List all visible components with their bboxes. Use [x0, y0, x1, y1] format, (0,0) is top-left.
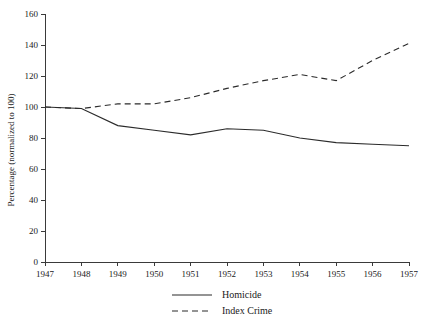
y-tick-label: 140 [25, 40, 39, 50]
y-tick-label: 160 [25, 9, 39, 19]
y-tick-label: 20 [29, 226, 39, 236]
x-tick-label: 1954 [291, 269, 310, 279]
x-tick-label: 1953 [254, 269, 273, 279]
y-tick-label: 0 [34, 257, 39, 267]
y-tick-label: 120 [25, 71, 39, 81]
y-axis-title: Percentage (normalized to 100) [6, 93, 16, 206]
y-tick-marks [41, 14, 45, 262]
x-tick-label: 1949 [109, 269, 128, 279]
x-tick-label: 1957 [400, 269, 419, 279]
legend-label-index-crime: Index Crime [222, 305, 273, 316]
series-line-homicide [45, 107, 409, 146]
x-tick-label: 1948 [72, 269, 91, 279]
y-tick-label: 40 [29, 195, 39, 205]
x-tick-label: 1955 [327, 269, 346, 279]
legend: Homicide Index Crime [172, 289, 273, 316]
y-tick-label: 100 [25, 102, 39, 112]
x-tick-label: 1947 [36, 269, 55, 279]
series-line-index-crime [45, 43, 409, 108]
x-tick-marks [45, 262, 409, 266]
series-group [45, 43, 409, 145]
x-tick-label: 1956 [364, 269, 383, 279]
x-tick-label: 1952 [218, 269, 236, 279]
chart-figure: 020406080100120140160 194719481949195019… [0, 0, 430, 323]
y-tick-label: 80 [29, 133, 39, 143]
y-tick-label: 60 [29, 164, 39, 174]
x-tick-label: 1950 [145, 269, 164, 279]
y-tick-labels: 020406080100120140160 [25, 9, 39, 267]
legend-label-homicide: Homicide [222, 289, 262, 300]
x-tick-labels: 1947194819491950195119521953195419551956… [36, 269, 419, 279]
line-chart: 020406080100120140160 194719481949195019… [0, 0, 430, 323]
y-axis: 020406080100120140160 [25, 9, 46, 267]
x-axis: 1947194819491950195119521953195419551956… [36, 262, 419, 279]
x-tick-label: 1951 [182, 269, 200, 279]
